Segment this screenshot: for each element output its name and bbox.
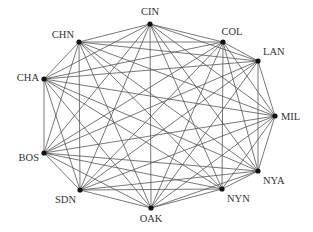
edge-nyn-bos — [44, 153, 222, 189]
edge-chn-nya — [79, 42, 258, 171]
node-cha — [41, 76, 46, 81]
node-label-mil: MIL — [281, 111, 300, 122]
node-label-oak: OAK — [140, 213, 163, 224]
node-label-lan: LAN — [263, 46, 285, 57]
node-label-cin: CIN — [141, 6, 160, 17]
node-label-chn: CHN — [52, 29, 75, 40]
edge-chn-cha — [44, 42, 79, 79]
edge-cin-chn — [79, 24, 150, 42]
node-label-col: COL — [222, 26, 243, 37]
node-nyn — [219, 186, 224, 191]
node-label-sdn: SDN — [55, 194, 76, 205]
edges-layer — [44, 24, 275, 208]
node-label-cha: CHA — [17, 72, 40, 83]
edge-mil-oak — [151, 116, 275, 208]
edge-lan-oak — [151, 61, 258, 208]
node-lan — [255, 58, 260, 63]
edge-nyn-cha — [44, 79, 222, 189]
edge-chn-sdn — [79, 42, 80, 190]
edge-nyn-sdn — [80, 189, 222, 190]
edge-lan-mil — [258, 61, 275, 116]
node-sdn — [77, 187, 82, 192]
edge-oak-sdn — [80, 190, 151, 208]
node-chn — [76, 39, 81, 44]
edge-chn-mil — [79, 42, 275, 116]
edge-lan-cha — [44, 61, 258, 79]
node-oak — [148, 205, 153, 210]
node-bos — [41, 150, 46, 155]
edge-mil-nya — [258, 116, 275, 171]
edge-cin-mil — [150, 24, 275, 116]
edge-mil-sdn — [80, 116, 275, 190]
edge-lan-sdn — [80, 61, 258, 190]
node-cin — [147, 21, 152, 26]
network-graph: CINCOLLANMILNYANYNOAKSDNBOSCHACHN — [0, 0, 313, 232]
edge-col-bos — [44, 42, 223, 153]
node-label-bos: BOS — [19, 152, 40, 163]
node-label-nya: NYA — [263, 175, 285, 186]
edge-nya-nyn — [222, 171, 258, 189]
node-col — [220, 39, 225, 44]
edge-nyn-oak — [151, 189, 222, 208]
node-nya — [255, 168, 260, 173]
node-mil — [272, 113, 277, 118]
node-label-nyn: NYN — [227, 193, 250, 204]
edge-sdn-bos — [44, 153, 80, 190]
